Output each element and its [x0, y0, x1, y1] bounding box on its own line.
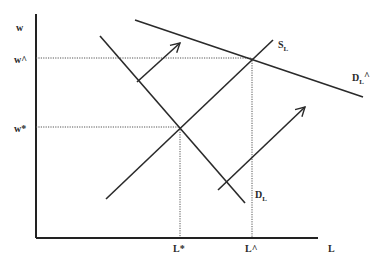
y-axis-label: w — [16, 22, 24, 33]
l-star-label: L* — [173, 243, 185, 254]
shift-arrow-upper — [137, 43, 180, 82]
w-hat-label: w^ — [14, 54, 27, 65]
supply-curve — [106, 40, 273, 199]
demand-curve — [100, 36, 245, 203]
w-star-label: w* — [14, 123, 26, 134]
shift-arrow-lower — [218, 107, 305, 190]
x-axis-label: L — [328, 243, 335, 254]
new-demand-curve-label: DL^ — [352, 70, 370, 86]
demand-curve-label: DL — [255, 189, 267, 203]
labor-market-diagram: w L w^ w* L* L^ SL DL DL^ — [0, 0, 390, 268]
l-hat-label: L^ — [245, 243, 258, 254]
supply-curve-label: SL — [278, 39, 289, 53]
